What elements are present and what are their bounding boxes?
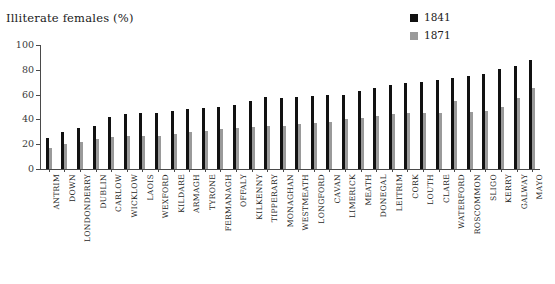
- x-axis-category-label: KILDARE: [177, 174, 186, 213]
- x-axis-category-label: OFFALY: [239, 174, 248, 207]
- y-axis-tick-label: 60: [0, 89, 34, 100]
- x-axis-category-label: CAVAN: [333, 174, 342, 204]
- x-axis-category-label: DOWN: [68, 174, 77, 202]
- bar-1871: [111, 137, 114, 169]
- x-axis-tick: [283, 169, 284, 172]
- bar-group: [135, 45, 151, 169]
- x-axis-tick: [298, 169, 299, 172]
- x-axis-line: [40, 169, 540, 170]
- legend-swatch-1871-icon: [410, 32, 418, 40]
- x-axis-category-label: CORK: [411, 174, 420, 199]
- bar-1871: [439, 113, 442, 169]
- bar-group: [181, 45, 197, 169]
- bar-group: [213, 45, 229, 169]
- bar-group: [119, 45, 135, 169]
- bar-group: [88, 45, 104, 169]
- bar-1871: [252, 127, 255, 169]
- bar-1871: [142, 136, 145, 169]
- x-axis-tick: [220, 169, 221, 172]
- x-axis-tick: [49, 169, 50, 172]
- bar-group: [150, 45, 166, 169]
- bar-1871: [189, 132, 192, 169]
- x-axis-tick: [423, 169, 424, 172]
- bar-1871: [158, 136, 161, 169]
- x-axis-category-label: GALWAY: [520, 174, 529, 209]
- bar-group: [493, 45, 509, 169]
- x-axis-tick: [470, 169, 471, 172]
- bar-group: [524, 45, 540, 169]
- bar-group: [446, 45, 462, 169]
- bar-group: [337, 45, 353, 169]
- bar-group: [72, 45, 88, 169]
- x-axis-tick: [361, 169, 362, 172]
- bar-1871: [127, 136, 130, 169]
- bar-1871: [220, 129, 223, 169]
- x-axis-tick: [96, 169, 97, 172]
- y-axis-tick-label: 80: [0, 64, 34, 75]
- x-axis-tick: [189, 169, 190, 172]
- x-axis-category-label: ARMAGH: [192, 174, 201, 213]
- legend-swatch-1841-icon: [410, 14, 418, 22]
- x-axis-category-label: CARLOW: [114, 174, 123, 212]
- y-axis-tick: [36, 169, 41, 170]
- x-axis-category-label: ANTRIM: [52, 174, 61, 210]
- bar-1871: [283, 126, 286, 169]
- bar-1871: [485, 111, 488, 169]
- x-axis-category-label: FERMANAGH: [224, 174, 233, 231]
- bar-1871: [345, 119, 348, 169]
- x-axis-tick: [64, 169, 65, 172]
- x-axis-tick: [127, 169, 128, 172]
- bar-group: [431, 45, 447, 169]
- bar-group: [275, 45, 291, 169]
- bar-1871: [64, 144, 67, 169]
- x-axis-tick: [407, 169, 408, 172]
- bar-1871: [470, 112, 473, 169]
- x-axis-category-label: SLIGO: [489, 174, 498, 201]
- plot-area: [41, 45, 540, 169]
- chart-title: Illiterate females (%): [6, 11, 134, 25]
- x-axis-tick: [517, 169, 518, 172]
- bar-1871: [423, 113, 426, 169]
- y-axis-tick-label: 100: [0, 39, 34, 50]
- y-axis-tick-label: 40: [0, 113, 34, 124]
- x-axis-tick: [205, 169, 206, 172]
- bar-group: [291, 45, 307, 169]
- x-axis-tick: [314, 169, 315, 172]
- y-axis-tick-label: 20: [0, 138, 34, 149]
- bar-1871: [517, 98, 520, 169]
- x-axis-category-label: WESTMEATH: [301, 174, 310, 230]
- x-axis-category-label: DUBLIN: [99, 174, 108, 209]
- bar-group: [259, 45, 275, 169]
- bar-1871: [329, 122, 332, 169]
- x-axis-category-label: LIMERICK: [348, 174, 357, 218]
- bar-1871: [314, 123, 317, 169]
- x-axis-category-label: WEXFORD: [161, 174, 170, 218]
- x-axis-tick: [236, 169, 237, 172]
- bar-group: [244, 45, 260, 169]
- x-axis-category-label: ROSCOMMON: [473, 174, 482, 234]
- x-axis-tick: [267, 169, 268, 172]
- x-axis-tick: [439, 169, 440, 172]
- bar-group: [166, 45, 182, 169]
- x-axis-category-label: MAYO: [535, 174, 544, 199]
- x-axis-tick: [454, 169, 455, 172]
- bar-group: [478, 45, 494, 169]
- x-axis-tick: [158, 169, 159, 172]
- x-axis-category-label: LONGFORD: [317, 174, 326, 224]
- chart-legend: 1841 1871: [410, 10, 451, 46]
- x-axis-category-label: MONAGHAN: [286, 174, 295, 227]
- x-axis-tick: [532, 169, 533, 172]
- bar-group: [368, 45, 384, 169]
- x-axis-category-label: WICKLOW: [130, 174, 139, 217]
- bar-1871: [205, 131, 208, 169]
- bar-1871: [298, 124, 301, 169]
- bar-group: [306, 45, 322, 169]
- bar-group: [322, 45, 338, 169]
- x-axis-tick: [174, 169, 175, 172]
- legend-item-1871: 1871: [410, 28, 451, 43]
- bar-1871: [392, 114, 395, 169]
- bar-1871: [532, 88, 535, 169]
- bar-group: [384, 45, 400, 169]
- legend-label-1841: 1841: [424, 12, 451, 23]
- x-axis-tick: [376, 169, 377, 172]
